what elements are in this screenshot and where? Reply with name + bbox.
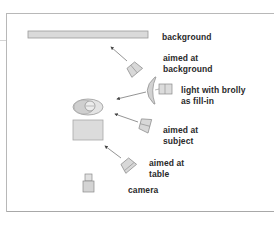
- brolly-label-line2: as fill-in: [181, 96, 246, 107]
- camera-label: camera: [128, 185, 158, 196]
- light-aimed-at-table-icon: [105, 146, 137, 173]
- light-table-label-line2: table: [149, 169, 184, 180]
- light-background-label-line2: background: [163, 64, 213, 75]
- light-aimed-at-background-icon: [111, 47, 143, 77]
- light-table-label-line1: aimed at: [149, 158, 184, 169]
- light-background-label-line1: aimed at: [163, 53, 213, 64]
- camera-icon: [83, 174, 94, 192]
- light-table-label: aimed at table: [149, 158, 184, 179]
- light-subject-label: aimed at subject: [163, 125, 198, 146]
- brolly-label-line1: light with brolly: [181, 85, 246, 96]
- background-label: background: [162, 32, 212, 43]
- brolly-light-icon: [117, 77, 172, 104]
- light-subject-label-line1: aimed at: [163, 125, 198, 136]
- background-bar: [28, 31, 148, 38]
- light-background-label: aimed at background: [163, 53, 213, 74]
- table-icon: [73, 120, 103, 140]
- light-aimed-at-subject-icon: [115, 114, 152, 133]
- subject-icon: [73, 99, 103, 115]
- brolly-label: light with brolly as fill-in: [181, 85, 246, 106]
- light-subject-label-line2: subject: [163, 136, 198, 147]
